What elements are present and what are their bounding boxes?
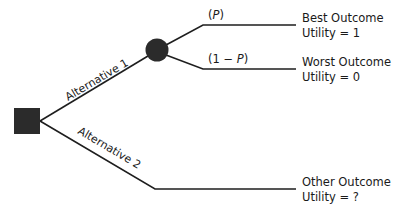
best-outcome-branch-line [166,25,296,45]
probability-1-minus-p-label: (1 − P) [208,52,248,66]
other-outcome-utility: Utility = ? [302,190,359,204]
decision-tree-diagram: Alternative 1 Alternative 2 (P) (1 − P) … [0,0,393,217]
chance-node-circle [146,39,169,62]
alternative-1-label: Alternative 1 [63,56,131,103]
worst-outcome-utility: Utility = 0 [302,70,360,84]
probability-p-label: (P) [208,8,224,22]
best-outcome-utility: Utility = 1 [302,26,360,40]
decision-node-square [14,108,40,134]
best-outcome-label: Best Outcome [302,11,384,25]
worst-outcome-label: Worst Outcome [302,55,391,69]
other-outcome-label: Other Outcome [302,175,391,189]
